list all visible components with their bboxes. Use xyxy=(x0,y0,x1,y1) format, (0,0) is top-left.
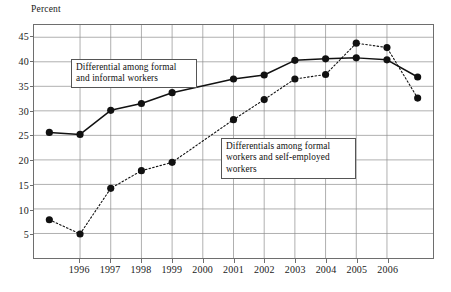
data-point xyxy=(291,57,298,64)
y-tick-mark xyxy=(30,160,33,161)
y-tick-label: 10 xyxy=(3,204,29,215)
y-tick-label: 30 xyxy=(3,105,29,116)
data-point xyxy=(230,75,237,82)
x-tick-mark xyxy=(326,259,327,263)
data-point xyxy=(322,55,329,62)
data-point xyxy=(169,89,176,96)
annotation-self-employed: Differentials among formal workers and s… xyxy=(221,138,356,179)
y-tick-mark xyxy=(30,86,33,87)
y-tick-mark xyxy=(30,135,33,136)
y-tick-label: 40 xyxy=(3,56,29,67)
x-tick-mark xyxy=(172,259,173,263)
x-tick-mark xyxy=(264,259,265,263)
y-tick-mark xyxy=(30,36,33,37)
data-point xyxy=(261,96,268,103)
y-tick-mark xyxy=(30,185,33,186)
y-tick-mark xyxy=(30,61,33,62)
data-point xyxy=(76,230,83,237)
data-point xyxy=(138,167,145,174)
x-tick-mark xyxy=(295,259,296,263)
x-tick-label: 2006 xyxy=(368,264,408,275)
data-point xyxy=(353,40,360,47)
y-tick-label: 15 xyxy=(3,179,29,190)
data-point xyxy=(261,71,268,78)
annotation-formal-informal: Differential among formal and informal w… xyxy=(71,59,197,88)
y-tick-mark xyxy=(30,210,33,211)
y-tick-mark xyxy=(30,111,33,112)
data-point xyxy=(414,95,421,102)
data-point xyxy=(383,44,390,51)
x-tick-mark xyxy=(79,259,80,263)
x-tick-mark xyxy=(203,259,204,263)
data-point xyxy=(230,116,237,123)
data-point xyxy=(322,71,329,78)
chart-page: Percent 51015202530354045 19961997199819… xyxy=(0,0,451,292)
y-tick-label: 45 xyxy=(3,31,29,42)
y-axis-title: Percent xyxy=(31,4,61,14)
data-point xyxy=(107,185,114,192)
data-point xyxy=(76,131,83,138)
y-tick-label: 25 xyxy=(3,130,29,141)
y-tick-label: 20 xyxy=(3,155,29,166)
data-point xyxy=(353,54,360,61)
data-point xyxy=(46,216,53,223)
x-tick-mark xyxy=(357,259,358,263)
data-point xyxy=(414,73,421,80)
data-point xyxy=(291,75,298,82)
data-point xyxy=(138,100,145,107)
x-tick-mark xyxy=(141,259,142,263)
y-tick-mark xyxy=(30,234,33,235)
data-point xyxy=(383,56,390,63)
y-tick-label: 35 xyxy=(3,80,29,91)
y-tick-label: 5 xyxy=(3,229,29,240)
x-tick-mark xyxy=(110,259,111,263)
data-point xyxy=(107,107,114,114)
x-tick-mark xyxy=(234,259,235,263)
data-point xyxy=(46,129,53,136)
data-point xyxy=(169,159,176,166)
x-tick-mark xyxy=(388,259,389,263)
